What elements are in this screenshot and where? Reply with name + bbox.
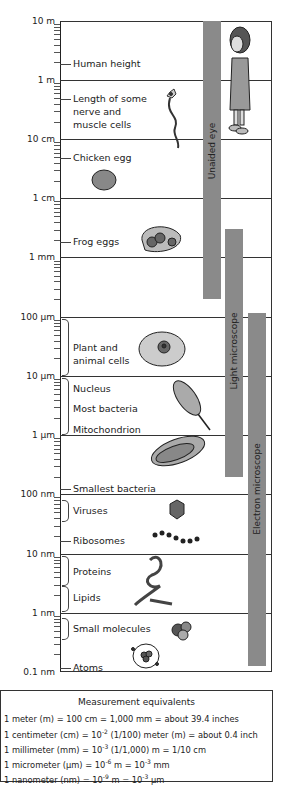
legend-line-centimeter: 1 centimeter (cm) = 10-2 (1/100) meter (…	[1, 726, 272, 741]
legend-text: m = 10	[109, 775, 143, 785]
legend-line-meter: 1 meter (m) = 100 cm = 1,000 mm = about …	[1, 713, 272, 726]
animal-cell-icon	[139, 332, 185, 366]
atom-icon	[132, 644, 160, 668]
ribosomes-icon	[153, 531, 200, 544]
legend-title: Measurement equivalents	[1, 697, 272, 707]
bacterium-icon	[168, 376, 210, 430]
legend-text: mm	[151, 760, 170, 770]
illustrations	[0, 0, 283, 690]
legend-text: 1 micrometer (µm) = 10	[4, 760, 105, 770]
legend-text: 1 meter (m) = 100 cm = 1,000 mm = about …	[4, 714, 239, 724]
legend-line-millimeter: 1 millimeter (mm) = 10-3 (1/1,000) m = 1…	[1, 741, 272, 756]
frog-eggs-icon	[142, 227, 181, 252]
human-figure-icon	[229, 27, 250, 134]
nerve-cell-icon	[167, 89, 178, 148]
measurement-legend: Measurement equivalents 1 meter (m) = 10…	[0, 690, 273, 782]
chicken-egg-icon	[92, 170, 116, 190]
legend-text: m = 10	[111, 760, 145, 770]
legend-line-nanometer: 1 nanometer (nm) = 10-9 m = 10-3 µm	[1, 771, 272, 786]
legend-text: µm	[148, 775, 164, 785]
legend-text: 1 nanometer (nm) = 10	[4, 775, 103, 785]
mitochondrion-icon	[148, 430, 209, 472]
legend-text: 1 millimeter (mm) = 10	[4, 745, 102, 755]
legend-line-micrometer: 1 micrometer (µm) = 10-6 m = 10-3 mm	[1, 756, 272, 771]
virus-icon	[170, 500, 184, 519]
protein-icon	[135, 557, 172, 605]
legend-text: (1/100) meter (m) = about 0.4 inch	[108, 729, 258, 739]
legend-text: 1 centimeter (cm) = 10	[4, 729, 102, 739]
legend-text: (1/1,000) m = 1/10 cm	[108, 745, 206, 755]
small-molecule-icon	[172, 622, 191, 640]
